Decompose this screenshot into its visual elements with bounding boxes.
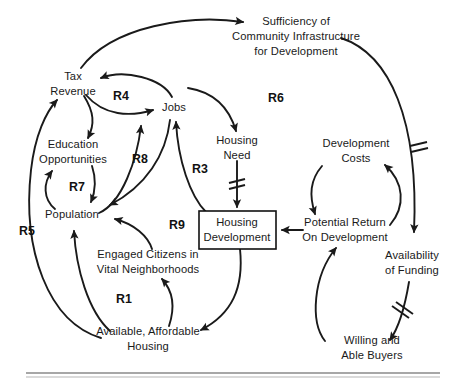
svg-text:Engaged Citizens in: Engaged Citizens in [97, 248, 198, 260]
link-tax-to-sufficiency [81, 20, 243, 68]
svg-text:Community Infrastructure: Community Infrastructure [232, 30, 360, 42]
link-education-to-population [91, 166, 95, 202]
link-engaged-to-population [115, 219, 152, 249]
link-affordable-to-engaged [162, 279, 173, 326]
loop-label-r6: R6 [268, 91, 284, 105]
link-potential-to-development-costs [385, 165, 401, 225]
svg-text:Costs: Costs [341, 152, 370, 164]
node-population: Population [45, 208, 99, 220]
svg-text:Sufficiency of: Sufficiency of [262, 15, 331, 27]
link-sufficiency-to-availability [341, 38, 415, 232]
loop-label-r3: R3 [192, 162, 208, 176]
link-jobs-to-tax [101, 74, 172, 97]
link-sufficiency-to-housing-need [188, 88, 236, 131]
svg-text:Vital Neighborhoods: Vital Neighborhoods [97, 263, 200, 275]
svg-text:Population: Population [45, 208, 99, 220]
svg-text:Jobs: Jobs [162, 101, 186, 113]
link-costs-to-potential [311, 166, 322, 214]
node-housing-need: Housing Need [216, 134, 258, 161]
link-affordable-to-population [74, 231, 110, 331]
loop-label-r5: R5 [19, 224, 35, 238]
loop-label-r8: R8 [132, 152, 148, 166]
links-layer [29, 20, 428, 341]
loop-label-r7: R7 [69, 180, 85, 194]
node-jobs: Jobs [162, 101, 186, 113]
svg-text:Housing: Housing [127, 340, 169, 352]
loop-label-r1: R1 [116, 292, 132, 306]
node-affordable-housing: Available, Affordable Housing [96, 325, 200, 352]
node-education-opportunities: Education Opportunities [39, 138, 107, 165]
svg-text:Able Buyers: Able Buyers [341, 349, 403, 361]
svg-text:Potential Return: Potential Return [304, 216, 386, 228]
svg-text:Availability: Availability [385, 249, 439, 261]
svg-text:Available, Affordable: Available, Affordable [96, 325, 200, 337]
node-willing-buyers: Willing and Able Buyers [341, 334, 403, 361]
svg-text:Revenue: Revenue [50, 85, 95, 97]
svg-text:Opportunities: Opportunities [39, 153, 107, 165]
delay-mark-availability [410, 142, 428, 152]
link-willing-to-potential [316, 248, 336, 341]
node-availability-of-funding: Availability of Funding [385, 249, 439, 276]
svg-text:Housing: Housing [216, 216, 258, 228]
svg-text:Willing and: Willing and [344, 334, 400, 346]
svg-text:Education: Education [48, 138, 99, 150]
node-engaged-citizens: Engaged Citizens in Vital Neighborhoods [97, 248, 200, 275]
svg-text:Housing: Housing [216, 134, 258, 146]
svg-text:On Development: On Development [302, 231, 388, 243]
causal-loop-diagram: Tax Revenue Sufficiency of Community Inf… [0, 0, 463, 386]
svg-text:Tax: Tax [64, 70, 82, 82]
footer-rule [26, 373, 440, 377]
loop-label-r9: R9 [169, 218, 185, 232]
node-development-costs: Development Costs [322, 137, 390, 164]
diagram-page: Tax Revenue Sufficiency of Community Inf… [0, 0, 463, 386]
node-tax-revenue: Tax Revenue [50, 70, 95, 97]
link-population-to-education [46, 171, 55, 209]
svg-text:Need: Need [223, 149, 250, 161]
loop-label-r4: R4 [113, 89, 129, 103]
node-potential-return: Potential Return On Development [302, 216, 388, 243]
node-sufficiency: Sufficiency of Community Infrastructure … [232, 15, 360, 57]
svg-text:for Development: for Development [254, 45, 338, 57]
svg-text:of Funding: of Funding [385, 264, 439, 276]
svg-text:Development: Development [203, 231, 271, 243]
link-development-to-affordable [201, 249, 241, 330]
link-tax-to-education [84, 96, 93, 138]
svg-text:Development: Development [322, 137, 390, 149]
